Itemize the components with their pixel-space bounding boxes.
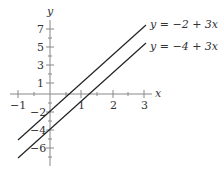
y-tick-label: 7 (37, 23, 44, 36)
y-axis-label: y (46, 5, 54, 18)
y-tick-label: 1 (37, 77, 44, 90)
y-tick-label: −4 (30, 124, 46, 137)
line2-label: y = −4 + 3x (149, 40, 219, 53)
y-tick-label: −2 (30, 106, 46, 119)
y-tick-label: −6 (30, 142, 46, 155)
x-tick-label: 2 (110, 99, 117, 112)
y-tick-label: 5 (37, 41, 44, 54)
x-tick-label: 3 (141, 99, 148, 112)
x-tick-label: −1 (10, 99, 26, 112)
x-tick-label: 1 (78, 99, 85, 112)
x-axis-label: x (155, 87, 162, 100)
y-tick-label: 3 (37, 59, 44, 72)
chart: x y −1 1 2 3 7 5 3 1 −2 −4 −6 y = −2 + 3… (0, 0, 223, 172)
line1-label: y = −2 + 3x (149, 18, 219, 31)
